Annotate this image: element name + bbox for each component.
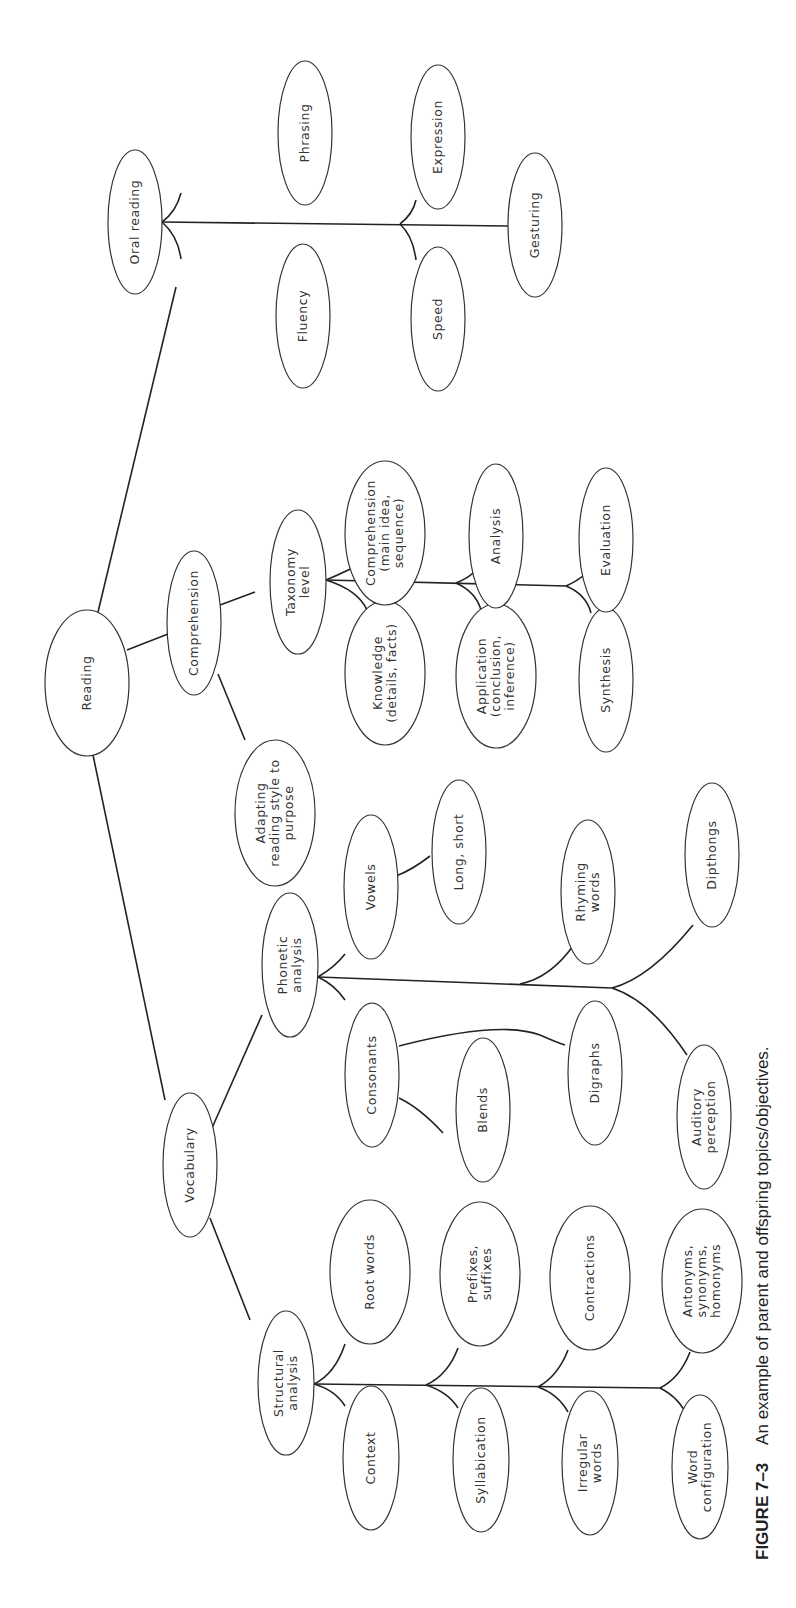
node-label: Application(conclusion,inference) (474, 635, 517, 717)
node-syllabication: Syllabication (453, 1388, 509, 1532)
node-label: Consonants (364, 1035, 379, 1114)
edge-vocab-structural (210, 1218, 250, 1320)
node-speed: Speed (411, 247, 465, 391)
node-consonants: Consonants (345, 1003, 399, 1147)
node-auditory: Auditoryperception (677, 1045, 731, 1189)
edge-structural-prefix (426, 1348, 458, 1385)
tree-nodes: ReadingVocabularyComprehensionOral readi… (45, 61, 742, 1539)
node-label: Phoneticanalysis (275, 936, 304, 995)
reading-topic-tree-diagram: ReadingVocabularyComprehensionOral readi… (0, 0, 796, 1608)
node-rhyming: Rhymingwords (561, 820, 615, 964)
node-label: Vocabulary (182, 1127, 197, 1202)
edge-phonetic-vowels (318, 954, 345, 977)
node-label: Analysis (488, 508, 503, 564)
edge-structural-syllab (426, 1385, 458, 1408)
node-label: Fluency (295, 290, 310, 343)
node-application: Application(conclusion,inference) (456, 604, 536, 748)
node-label: Contractions (582, 1235, 597, 1322)
node-reading: Reading (45, 610, 129, 756)
edge-oral-fluency (162, 222, 181, 259)
node-label: Prefixes,suffixes (465, 1245, 494, 1303)
node-label: Root words (362, 1234, 377, 1310)
figure-label: FIGURE 7–3 (753, 1463, 772, 1560)
node-label: Expression (430, 100, 445, 174)
node-label: Structuralanalysis (271, 1349, 300, 1417)
svg-text:FIGURE 7–3 An example of: FIGURE 7–3 An example of parent and offs… (753, 1046, 772, 1560)
edge-consonants-blends (399, 1098, 443, 1133)
node-vowels: Vowels (344, 815, 398, 959)
node-taxonomy-level: Taxonomylevel (270, 510, 326, 654)
node-label: Phrasing (297, 104, 312, 163)
node-comp-main: Comprehension(main idea,sequence) (345, 461, 425, 605)
node-expression: Expression (411, 65, 465, 209)
node-phrasing: Phrasing (278, 61, 332, 205)
node-structural-analysis: Structuralanalysis (258, 1311, 314, 1455)
node-adapting: Adaptingreading style topurpose (235, 740, 315, 886)
node-gesturing: Gesturing (508, 153, 562, 297)
edge-phonetic-consonants (318, 977, 345, 1000)
figure-caption: FIGURE 7–3 An example of parent and offs… (753, 1046, 772, 1560)
node-label: Knowledge(details, facts) (370, 623, 399, 722)
node-evaluation: Evaluation (579, 468, 633, 612)
node-prefixes: Prefixes,suffixes (440, 1202, 520, 1346)
node-phonetic-analysis: Phoneticanalysis (262, 893, 318, 1037)
edge-vocab-phonetic (212, 1015, 262, 1128)
node-fluency: Fluency (276, 244, 330, 388)
node-label: Vowels (363, 864, 378, 911)
node-contractions: Contractions (550, 1206, 630, 1350)
edge-oral-speed (400, 224, 416, 260)
edge-phonetic-auditory (612, 988, 687, 1055)
edge-reading-vocabulary (93, 755, 165, 1100)
node-irregular: Irregularwords (562, 1391, 618, 1535)
edge-oral-phrasing (162, 193, 181, 222)
node-long-short: Long, short (432, 780, 486, 924)
node-label: Synthesis (598, 647, 613, 713)
node-synthesis: Synthesis (579, 608, 633, 752)
edge-structural-irreg (538, 1387, 568, 1412)
node-label: Gesturing (527, 192, 542, 259)
node-root-words: Root words (330, 1200, 410, 1344)
node-label: Speed (430, 298, 445, 340)
edge-structural-contract (538, 1350, 568, 1387)
node-label: Context (363, 1431, 378, 1484)
node-blends: Blends (456, 1038, 510, 1182)
edge-comp-taxonomy (220, 592, 255, 605)
node-oral-reading: Oral reading (108, 150, 162, 294)
node-digraphs: Digraphs (568, 1001, 622, 1145)
node-label: Dipthongs (704, 820, 719, 889)
node-label: Evaluation (598, 504, 613, 576)
node-label: Reading (79, 656, 94, 711)
edge-phonetic-rhyming (520, 946, 573, 984)
node-word-config: Wordconfiguration (672, 1395, 728, 1539)
edge-reading-oral (98, 287, 176, 612)
node-label: Antonyms,synonyms,homonyms (680, 1244, 723, 1318)
edge-oral-spine (162, 222, 508, 226)
figure-caption-text: An example of parent and offspring topic… (753, 1046, 772, 1444)
node-antonyms: Antonyms,synonyms,homonyms (662, 1209, 742, 1353)
edge-phonetic-spine (318, 977, 612, 988)
node-analysis: Analysis (469, 464, 523, 608)
node-label: Blends (475, 1087, 490, 1133)
node-context: Context (343, 1386, 399, 1530)
edge-comp-adapting (218, 674, 245, 740)
node-dipthongs: Dipthongs (685, 783, 739, 927)
node-comprehension: Comprehension (167, 551, 221, 695)
edge-vowels-longshort (396, 856, 430, 876)
node-label: Auditoryperception (689, 1081, 718, 1154)
node-label: Syllabication (473, 1416, 488, 1504)
edge-phonetic-dipthongs (612, 925, 693, 988)
node-label: Comprehension (186, 570, 201, 676)
node-label: Long, short (451, 814, 466, 891)
node-label: Oral reading (127, 180, 142, 265)
edge-reading-comprehension (127, 634, 168, 650)
edge-structural-root (314, 1344, 345, 1384)
node-label: Digraphs (587, 1042, 602, 1103)
node-knowledge: Knowledge(details, facts) (345, 601, 425, 745)
edge-structural-antonym (660, 1352, 690, 1388)
edge-oral-expression (400, 200, 416, 224)
node-vocabulary: Vocabulary (163, 1093, 217, 1237)
edge-structural-context (314, 1384, 345, 1406)
